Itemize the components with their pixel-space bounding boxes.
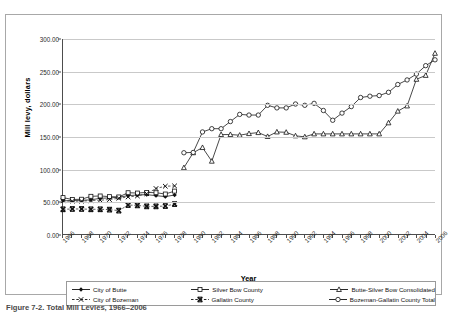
open-triangle-icon xyxy=(329,285,349,294)
gridline xyxy=(63,202,435,203)
y-tick-mark xyxy=(58,71,61,72)
y-tick-label: 50.00 xyxy=(43,199,59,206)
figure-frame: Mill levy, dollars 0.0050.00100.00150.00… xyxy=(5,14,442,295)
series-silver-bow-county xyxy=(61,189,177,201)
y-tick-label: 150.00 xyxy=(40,134,59,141)
legend-label: Butte-Silver Bow Consolidated xyxy=(351,286,435,293)
filled-diamond-icon xyxy=(71,285,91,294)
legend-row-1: City of Butte Silver Bow County Butte-Si… xyxy=(71,284,435,294)
gridline xyxy=(63,72,435,73)
legend-item-gallatin-county: Gallatin County xyxy=(190,295,328,304)
y-tick-mark xyxy=(58,169,61,170)
gridline xyxy=(63,170,435,171)
legend-item-city-of-butte: City of Butte xyxy=(71,285,190,294)
x-tick-label: 2006 xyxy=(434,229,449,244)
legend-item-butte-silver-bow-consolidated: Butte-Silver Bow Consolidated xyxy=(329,285,435,294)
legend-item-silver-bow-county: Silver Bow County xyxy=(190,285,329,294)
y-tick-mark xyxy=(58,235,61,236)
y-tick-mark xyxy=(58,104,61,105)
y-tick-label: 300.00 xyxy=(40,36,59,43)
legend-label: Gallatin County xyxy=(212,296,254,303)
plot-area xyxy=(62,39,435,235)
figure-caption: Figure 7-2. Total Mill Levies, 1966–2006 xyxy=(6,303,147,312)
y-tick-label: 200.00 xyxy=(40,101,59,108)
y-tick-mark xyxy=(58,202,61,203)
y-axis-labels: 0.0050.00100.00150.00200.00250.00300.00 xyxy=(6,39,59,235)
bold-x-marker-icon xyxy=(190,295,210,304)
gridline xyxy=(63,137,435,138)
legend-label: City of Butte xyxy=(93,286,127,293)
y-tick-label: 100.00 xyxy=(40,166,59,173)
gridline xyxy=(63,39,435,40)
y-tick-mark xyxy=(58,137,61,138)
legend-label: City of Bozeman xyxy=(93,296,138,303)
legend-label: Bozeman-Gallatin County Total xyxy=(350,296,435,303)
legend-item-bozeman-gallatin-county-total: Bozeman-Gallatin County Total xyxy=(328,295,435,304)
open-square-icon xyxy=(190,285,210,294)
y-tick-mark xyxy=(58,39,61,40)
gridline xyxy=(63,104,435,105)
series-gallatin-county xyxy=(61,202,177,213)
open-circle-icon xyxy=(328,295,348,304)
series-butte-silver-bow-consolidated xyxy=(182,51,438,170)
y-tick-label: 250.00 xyxy=(40,68,59,75)
legend-label: Silver Bow County xyxy=(212,286,263,293)
